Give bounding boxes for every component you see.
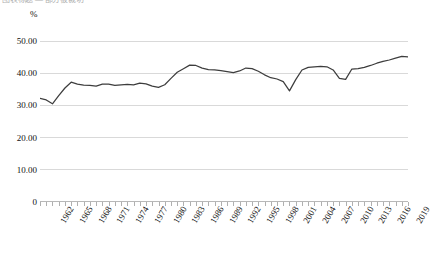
x-axis-label: 1992 — [246, 205, 263, 225]
x-axis-label: 2016 — [396, 205, 413, 225]
y-axis-label: 50.00 — [17, 37, 37, 46]
y-axis-label: 40.00 — [17, 69, 37, 78]
y-axis-label: 20.00 — [17, 134, 37, 143]
y-axis-label: 30.00 — [17, 101, 37, 110]
x-axis-label: 1986 — [209, 205, 226, 225]
x-axis-label: 1998 — [284, 205, 301, 225]
x-axis-labels: 1962196519681971197419771980198319861989… — [0, 205, 412, 253]
x-axis-label: 1983 — [190, 205, 207, 225]
plot-area — [40, 41, 408, 202]
x-axis-label: 1974 — [134, 205, 151, 225]
x-axis-label: 1995 — [265, 205, 282, 225]
x-axis-label: 1962 — [59, 205, 76, 225]
x-axis-label: 1968 — [97, 205, 114, 225]
x-axis-label: 2001 — [302, 205, 319, 225]
x-axis-label: 2010 — [359, 205, 376, 225]
x-axis-label: 2007 — [340, 205, 357, 225]
x-axis-label: 2013 — [377, 205, 394, 225]
x-axis-label: 1980 — [172, 205, 189, 225]
x-axis-label: 1989 — [228, 205, 245, 225]
x-axis-label: 1977 — [153, 205, 170, 225]
series-svg — [40, 41, 408, 202]
x-axis-label: 2004 — [321, 205, 338, 225]
y-axis-label: 10.00 — [17, 166, 37, 175]
x-axis-label: 1965 — [78, 205, 95, 225]
x-axis-label: 1971 — [115, 205, 132, 225]
data-series-line — [40, 56, 408, 103]
x-axis-label: 2019 — [415, 205, 432, 225]
